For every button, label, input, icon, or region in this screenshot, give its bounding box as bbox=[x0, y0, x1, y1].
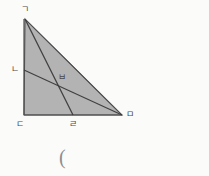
vertex-label-intersection: ㅂ bbox=[58, 73, 66, 82]
geometry-figure-svg bbox=[0, 0, 209, 176]
vertex-label-bottom-point: ㄹ bbox=[69, 120, 77, 129]
caption-paren-glyph: ( bbox=[59, 147, 66, 167]
vertex-label-bottom-left: ㄷ bbox=[16, 120, 24, 129]
vertex-label-apex: ㄱ bbox=[21, 5, 29, 14]
vertex-label-left-leg-point: ㄴ bbox=[11, 65, 19, 74]
vertex-label-bottom-right: ㅁ bbox=[126, 110, 134, 119]
geometry-figure-container: ㄱ ㄴ ㅂ ㄷ ㄹ ㅁ ( bbox=[0, 0, 209, 176]
